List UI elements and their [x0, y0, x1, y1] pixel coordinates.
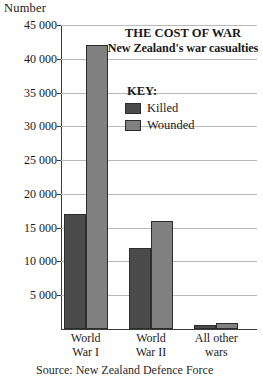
y-tick-mark [57, 194, 61, 195]
x-tick-label-line: War I [50, 345, 122, 359]
y-tick-mark [57, 295, 61, 296]
legend-label-killed: Killed [147, 101, 178, 116]
chart-subtitle: New Zealand's war casualties [104, 41, 262, 56]
x-tick-label-line: World [115, 331, 187, 345]
x-tick-label-line: War II [115, 345, 187, 359]
chart-title-block: THE COST OF WAR New Zealand's war casual… [104, 26, 262, 55]
y-axis-title: Number [4, 1, 46, 16]
bar-killed-1 [129, 248, 151, 329]
legend-item-wounded: Wounded [113, 118, 209, 133]
legend-title: KEY: [113, 84, 209, 99]
legend-item-killed: Killed [113, 101, 209, 116]
bar-killed-2 [194, 325, 216, 329]
y-tick-mark [57, 160, 61, 161]
x-tick-label: WorldWar I [50, 331, 122, 359]
legend-swatch-wounded-icon [125, 120, 141, 131]
x-tick-label-line: wars [180, 345, 252, 359]
legend: KEY: Killed Wounded [113, 84, 209, 133]
x-tick-label: WorldWar II [115, 331, 187, 359]
y-tick-mark [57, 25, 61, 26]
bar-wounded-1 [151, 221, 173, 329]
x-axis-line [61, 329, 257, 330]
y-tick-label: 5 000 [30, 288, 57, 303]
x-axis-tick-labels: WorldWar IWorldWar IIAll otherwars [61, 331, 257, 365]
y-tick-label: 25 000 [24, 153, 57, 168]
bar-wounded-0 [86, 45, 108, 329]
legend-label-wounded: Wounded [147, 118, 195, 133]
source-note: Source: New Zealand Defence Force [36, 363, 213, 378]
y-tick-mark [57, 261, 61, 262]
y-tick-label: 35 000 [24, 85, 57, 100]
y-tick-mark [57, 93, 61, 94]
plot-area [61, 25, 257, 329]
chart-title: THE COST OF WAR [104, 26, 262, 41]
x-tick-label-line: World [50, 331, 122, 345]
y-tick-label: 30 000 [24, 119, 57, 134]
y-tick-mark [57, 59, 61, 60]
y-tick-label: 10 000 [24, 254, 57, 269]
y-tick-mark [57, 126, 61, 127]
y-tick-mark [57, 228, 61, 229]
y-axis-tick-labels: 5 00010 00015 00020 00025 00030 00035 00… [0, 25, 57, 329]
legend-swatch-killed-icon [125, 103, 141, 114]
bar-wounded-2 [216, 323, 238, 329]
x-tick-label: All otherwars [180, 331, 252, 359]
y-tick-label: 40 000 [24, 51, 57, 66]
bar-killed-0 [64, 214, 86, 329]
y-tick-label: 45 000 [24, 18, 57, 33]
y-tick-label: 20 000 [24, 186, 57, 201]
y-tick-label: 15 000 [24, 220, 57, 235]
x-tick-label-line: All other [180, 331, 252, 345]
